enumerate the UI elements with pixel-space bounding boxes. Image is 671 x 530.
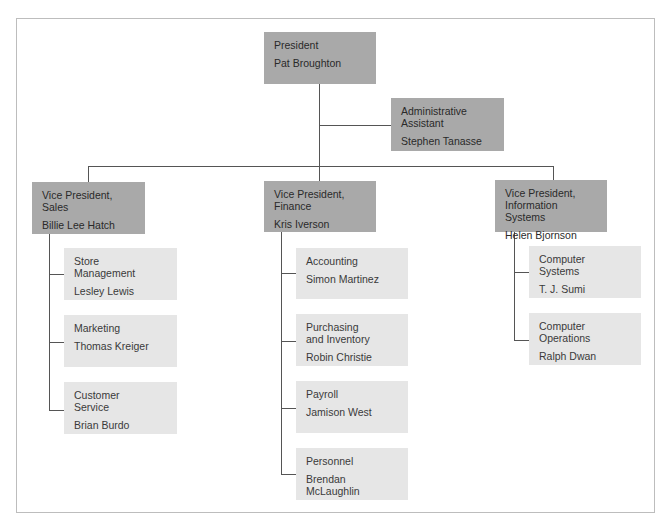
connector-sales-1 xyxy=(49,274,64,275)
person-name: Thomas Kreiger xyxy=(74,340,168,352)
role-title: President xyxy=(274,39,367,51)
connector-finance-2 xyxy=(281,341,296,342)
unit-title: Purchasing and Inventory xyxy=(306,321,399,345)
connector-finance-3 xyxy=(281,408,296,409)
connector-is-2 xyxy=(514,340,529,341)
connector-vp-bar xyxy=(88,166,553,167)
connector-is-trunk xyxy=(514,232,515,340)
person-name: Billie Lee Hatch xyxy=(42,219,136,231)
box-president: President Pat Broughton xyxy=(264,32,376,84)
connector-is-1 xyxy=(514,272,529,273)
person-name: T. J. Sumi xyxy=(539,283,632,295)
box-administrative-assistant: Administrative Assistant Stephen Tanasse xyxy=(391,98,504,151)
box-computer-systems: Computer Systems T. J. Sumi xyxy=(529,246,641,298)
connector-assistant xyxy=(319,125,391,126)
person-name: Brian Burdo xyxy=(74,419,168,431)
box-vp-information-systems: Vice President, Information Systems Hele… xyxy=(495,180,607,232)
unit-title: Personnel xyxy=(306,455,399,467)
person-name: Simon Martinez xyxy=(306,273,399,285)
person-name: Pat Broughton xyxy=(274,57,367,69)
box-payroll: Payroll Jamison West xyxy=(296,381,408,433)
box-accounting: Accounting Simon Martinez xyxy=(296,248,408,299)
unit-title: Payroll xyxy=(306,388,399,400)
person-name: Jamison West xyxy=(306,406,399,418)
box-computer-operations: Computer Operations Ralph Dwan xyxy=(529,313,641,365)
unit-title: Accounting xyxy=(306,255,399,267)
connector-sales-2 xyxy=(49,342,64,343)
unit-title: Marketing xyxy=(74,322,168,334)
role-title: Vice President, Sales xyxy=(42,189,136,213)
connector-finance-trunk xyxy=(281,232,282,474)
person-name: Helen Bjornson xyxy=(505,229,598,241)
person-name: Brendan McLaughlin xyxy=(306,473,399,497)
unit-title: Computer Systems xyxy=(539,253,632,277)
box-store-management: Store Management Lesley Lewis xyxy=(64,248,177,300)
connector-finance-4 xyxy=(281,474,296,475)
role-title: Vice President, Finance xyxy=(274,188,367,212)
connector-sales-trunk xyxy=(49,234,50,410)
connector-vp-sales xyxy=(88,166,89,182)
box-purchasing-inventory: Purchasing and Inventory Robin Christie xyxy=(296,314,408,366)
connector-sales-3 xyxy=(49,410,64,411)
person-name: Ralph Dwan xyxy=(539,350,632,362)
unit-title: Store Management xyxy=(74,255,168,279)
role-title: Administrative Assistant xyxy=(401,105,495,129)
box-marketing: Marketing Thomas Kreiger xyxy=(64,315,177,367)
box-vp-sales: Vice President, Sales Billie Lee Hatch xyxy=(32,182,145,234)
connector-finance-1 xyxy=(281,273,296,274)
box-customer-service: Customer Service Brian Burdo xyxy=(64,382,177,434)
person-name: Stephen Tanasse xyxy=(401,135,495,147)
person-name: Kris Iverson xyxy=(274,218,367,230)
role-title: Vice President, Information Systems xyxy=(505,187,598,223)
person-name: Lesley Lewis xyxy=(74,285,168,297)
connector-president-down xyxy=(319,84,320,182)
unit-title: Computer Operations xyxy=(539,320,632,344)
person-name: Robin Christie xyxy=(306,351,399,363)
unit-title: Customer Service xyxy=(74,389,168,413)
box-personnel: Personnel Brendan McLaughlin xyxy=(296,448,408,500)
box-vp-finance: Vice President, Finance Kris Iverson xyxy=(264,181,376,232)
